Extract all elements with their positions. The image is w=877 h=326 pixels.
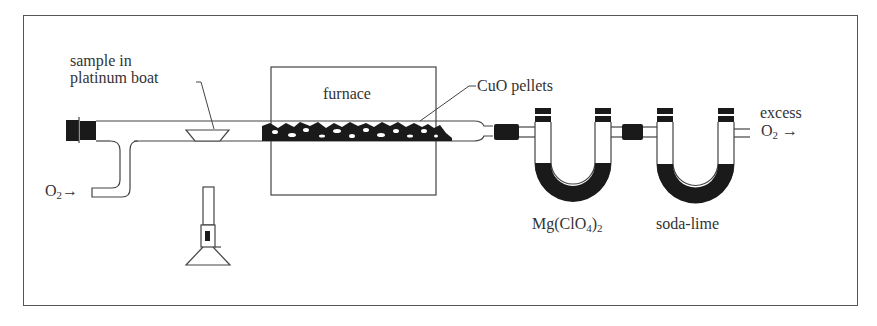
u-tube-sodalime xyxy=(657,108,734,204)
cuo-leader-line xyxy=(420,86,469,121)
platinum-boat xyxy=(186,130,229,141)
o2-inlet-arrow-icon: → xyxy=(62,182,78,199)
sample-leader-line xyxy=(201,82,214,129)
bunsen-burner xyxy=(186,187,230,265)
o2-outlet-subscript: 2 xyxy=(773,129,779,141)
o2-outlet-formula: O xyxy=(761,122,773,139)
furnace-label: furnace xyxy=(323,85,371,103)
connector-1 xyxy=(494,124,519,140)
u-tube-mgclo4 xyxy=(535,108,611,202)
connector-2 xyxy=(622,124,643,140)
o2-inlet-formula: O xyxy=(45,182,57,199)
o2-outlet-label: O2 → xyxy=(761,122,798,144)
o2-inlet-label: O2→ xyxy=(45,182,78,204)
mgclo4-formula: Mg(ClO xyxy=(532,215,586,232)
excess-label: excess xyxy=(760,104,802,122)
mgclo4-subscript-2: 2 xyxy=(597,222,603,234)
cuo-pellets xyxy=(262,122,452,141)
o2-inlet-arm xyxy=(92,141,138,197)
left-stopper xyxy=(66,117,96,143)
outlet-tube xyxy=(734,129,750,137)
o2-outlet-arrow-icon: → xyxy=(782,122,798,139)
apparatus-drawing xyxy=(0,0,877,326)
sodalime-label: soda-lime xyxy=(656,215,719,233)
sample-label-line2: platinum boat xyxy=(70,69,158,87)
sample-label-line1: sample in xyxy=(70,52,132,70)
cuo-pellets-label: CuO pellets xyxy=(477,77,553,95)
mgclo4-label: Mg(ClO4)2 xyxy=(532,215,603,237)
